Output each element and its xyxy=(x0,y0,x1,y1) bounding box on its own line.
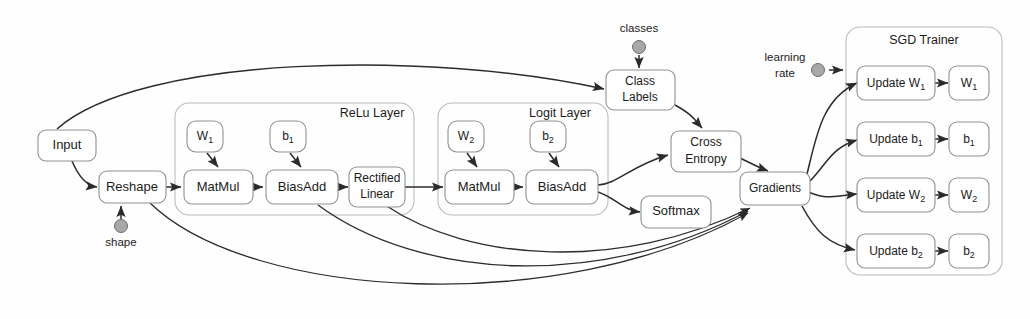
computation-graph: ReLu Layer Logit Layer SGD Trainer xyxy=(0,0,1030,319)
edge-b2-biasadd2 xyxy=(549,153,559,167)
node-gradients-label: Gradients xyxy=(749,181,801,195)
node-reshape-label: Reshape xyxy=(106,179,158,194)
node-relu-matmul-label: MatMul xyxy=(197,179,240,194)
node-softmax-label: Softmax xyxy=(652,203,700,218)
source-label-shape: shape xyxy=(105,236,136,248)
source-dot-learning-rate[interactable] xyxy=(812,64,825,77)
node-update-w2-label: Update W2 xyxy=(867,188,925,204)
source-dot-shape[interactable] xyxy=(115,220,128,233)
node-class-labels-label-1: Class xyxy=(625,74,655,88)
edge-classlabels-crossentropy xyxy=(675,105,702,128)
node-update-b2-label: Update b2 xyxy=(869,244,923,260)
node-input-label: Input xyxy=(53,137,82,152)
node-update-b1-label: Update b1 xyxy=(869,132,923,148)
edge-gradients-updatew2 xyxy=(808,192,857,197)
group-relu-layer-title: ReLu Layer xyxy=(340,106,405,120)
node-rectified-linear-label-1: Rectified xyxy=(354,171,401,185)
node-class-labels-label-2: Labels xyxy=(622,90,657,104)
edge-w1-matmul1 xyxy=(207,153,218,167)
group-sgd-trainer-title: SGD Trainer xyxy=(889,33,958,47)
node-logit-matmul-label: MatMul xyxy=(458,179,501,194)
node-update-w1-label: Update W1 xyxy=(867,76,925,92)
source-label-classes: classes xyxy=(620,22,659,34)
node-logit-biasadd-label: BiasAdd xyxy=(538,179,586,194)
node-cross-entropy-label-1: Cross xyxy=(690,135,721,149)
node-relu-biasadd-label: BiasAdd xyxy=(278,179,326,194)
edge-biasadd2-softmax xyxy=(598,192,640,212)
edge-gradients-updatew1 xyxy=(806,83,857,178)
node-rectified-linear-label-2: Linear xyxy=(360,187,393,201)
edge-crossentropy-gradients xyxy=(740,158,768,171)
edge-input-reshape xyxy=(72,161,97,187)
edge-gradients-updateb2 xyxy=(802,206,855,250)
source-dot-classes[interactable] xyxy=(633,41,646,54)
edge-w2-matmul2 xyxy=(467,153,477,167)
source-label-learning-rate-2: rate xyxy=(775,67,795,79)
group-logit-layer-title: Logit Layer xyxy=(529,106,591,120)
edge-input-classlabels xyxy=(57,65,604,129)
source-label-learning-rate-1: learning xyxy=(765,51,806,63)
edge-gradients-updateb1 xyxy=(808,140,857,183)
edge-b1-biasadd1 xyxy=(290,153,301,167)
diagram-canvas: ReLu Layer Logit Layer SGD Trainer xyxy=(0,0,1030,319)
node-cross-entropy-label-2: Entropy xyxy=(685,152,726,166)
